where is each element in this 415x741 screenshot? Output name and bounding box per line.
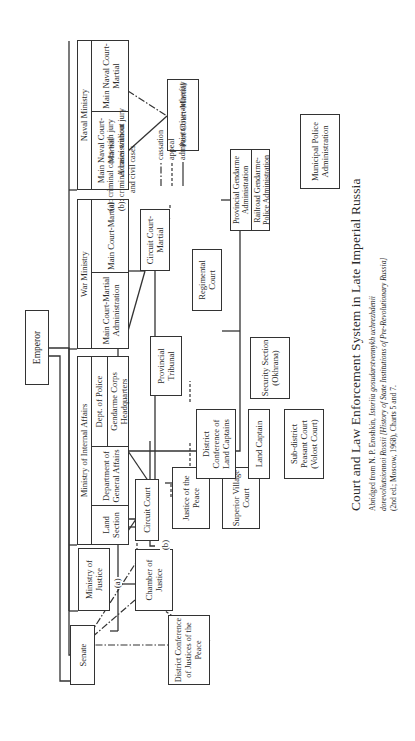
source-line2-italic: dorevoliutsionnoi Rossii [History of Sta… [379, 258, 388, 511]
node-regimental-court: Regimental Court [192, 249, 222, 311]
legend-note-b-2: and civil cases [127, 108, 138, 211]
legend-notes: (a): criminal cases with jury (b): crimi… [105, 108, 138, 211]
node-circuit-court-martial: Circuit Court-Martial [140, 209, 170, 271]
node-ministry-internal-affairs: Ministry of Internal Affairs Land Sectio… [77, 356, 129, 545]
node-chamber-of-justice: Chamber of Justice [135, 549, 173, 611]
source-line1-italic: Istoriia gosudarstvennykh uchrezhdenii [368, 296, 377, 416]
node-department-general-affairs: Department of General Affairs [92, 447, 129, 506]
legend-administrative-label: administrative authority [178, 82, 187, 160]
node-gendarme-administrations: Provincial Gendarme Administration Railr… [230, 149, 270, 231]
legend-note-b-1: (b): criminal cases without jury [116, 108, 127, 211]
node-subdistrict-peasant-court: Sub-district Peasant Court (Volost Court… [284, 409, 324, 479]
appeal-line-icon [168, 162, 176, 186]
edge-label-a: (a) [112, 577, 122, 589]
legend-administrative: administrative authority [177, 82, 188, 187]
node-security-section: Security Section (Okhrana) [250, 337, 290, 399]
source-line1: Abridged from N. P. Eroshkin, [368, 416, 377, 511]
diagram-title: Court and Law Enforcement System in Late… [348, 178, 364, 511]
node-provincial-tribunal: Provincial Tribunal [150, 336, 182, 396]
node-provincial-gendarme: Provincial Gendarme Administration [231, 150, 252, 230]
legend-cassation-label: cassation [156, 130, 165, 160]
node-emperor: Emperor [25, 310, 49, 385]
naval-ministry-header: Naval Ministry [78, 41, 92, 189]
legend-appeal: appeal [166, 82, 177, 187]
edge-label-b: (b) [160, 539, 170, 551]
legend-appeal-label: appeal [167, 139, 176, 160]
war-ministry-header: War Ministry [78, 200, 92, 348]
node-dept-of-police: Dept. of Police [92, 357, 108, 446]
node-land-section: Land Section [92, 506, 129, 544]
source-line3: (2nd ed.; Moscow, 1968), Charts 5 and 7. [389, 258, 400, 511]
legend-line-types: cassation appeal administrative authorit… [155, 82, 188, 187]
node-ministry-of-justice: Ministry of Justice [78, 548, 110, 611]
node-main-court-martial-admin: Main Court-Martial Administration [92, 273, 129, 348]
node-municipal-police: Municipal Police Administration [300, 114, 340, 189]
node-war-ministry: War Ministry Main Court-Martial Administ… [77, 199, 129, 349]
node-district-conference-land-captains: District Conference of Land Captains [196, 409, 236, 479]
node-circuit-court: Circuit Court [135, 479, 159, 541]
ministry-internal-affairs-header: Ministry of Internal Affairs [78, 357, 92, 544]
node-land-captain: Land Captain [248, 409, 270, 479]
node-main-naval-court-martial: Main Naval Court-Martial [92, 41, 129, 112]
legend-cassation: cassation [155, 82, 166, 187]
node-gendarme-corps-hq: Gendarme Corps Headquarters [108, 357, 129, 446]
node-senate: Senate [70, 625, 95, 685]
node-district-conference-justices: District Conference of Justices of the P… [168, 615, 210, 685]
diagram-source: Abridged from N. P. Eroshkin, Istoriia g… [368, 258, 400, 511]
cassation-line-icon [157, 162, 165, 186]
node-railroad-gendarme: Railroad Gendarme-Police Administration [252, 150, 271, 230]
administrative-line-icon [179, 162, 187, 186]
legend-note-a: (a): criminal cases with jury [105, 108, 116, 211]
court-system-diagram: Emperor Senate Ministry of Justice Minis… [0, 0, 415, 741]
